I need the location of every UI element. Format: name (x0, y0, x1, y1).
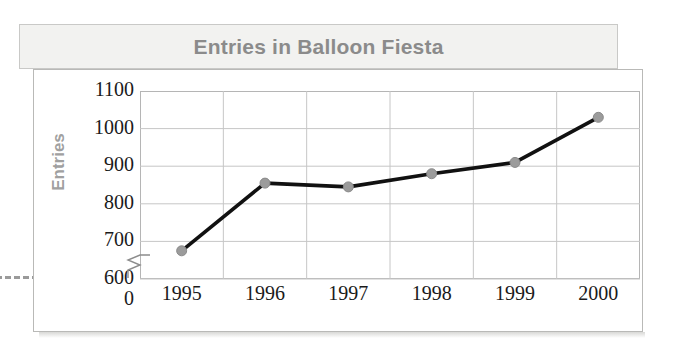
x-tick-label: 1996 (225, 282, 305, 305)
x-tick-label: 1995 (142, 282, 222, 305)
chart-title: Entries in Balloon Fiesta (193, 35, 443, 59)
data-point-marker (343, 182, 353, 192)
y-tick-label: 900 (62, 153, 134, 176)
y-tick-label: 1000 (62, 116, 134, 139)
x-axis-tick-labels: 199519961997199819992000 (0, 282, 681, 312)
data-point-marker (427, 169, 437, 179)
chart-plot (140, 91, 640, 279)
x-tick-label: 1997 (308, 282, 388, 305)
data-point-marker (510, 157, 520, 167)
y-tick-label: 700 (62, 228, 134, 251)
y-tick-label: 1100 (62, 78, 134, 101)
x-tick-label: 2000 (558, 282, 638, 305)
axis-break-symbol (126, 252, 152, 280)
data-point-marker (593, 112, 603, 122)
data-point-marker (260, 178, 270, 188)
gridlines (140, 91, 640, 279)
y-tick-label: 800 (62, 191, 134, 214)
worksheet-page: Entries in Balloon Fiesta Entries 110010… (0, 0, 681, 363)
x-tick-label: 1999 (475, 282, 555, 305)
data-point-marker (177, 246, 187, 256)
x-tick-label: 1998 (392, 282, 472, 305)
